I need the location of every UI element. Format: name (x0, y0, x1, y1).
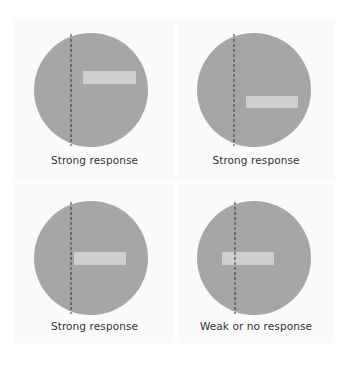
bar-stimulus (222, 252, 274, 265)
panel-top-right: Strong response (177, 19, 335, 181)
response-label: Weak or no response (177, 320, 335, 332)
panel-bottom-left: Strong response (14, 184, 175, 343)
panel-bottom-right: Weak or no response (177, 184, 335, 343)
response-label: Strong response (14, 154, 175, 166)
response-label: Strong response (14, 320, 175, 332)
panel-top-left: Strong response (14, 19, 175, 181)
bar-stimulus (83, 71, 136, 84)
receptive-field-circle (197, 33, 311, 147)
response-label: Strong response (177, 154, 335, 166)
bar-stimulus (74, 252, 126, 265)
bar-stimulus (246, 96, 298, 108)
receptive-field-diagram: Strong response Strong response Strong r… (14, 19, 335, 343)
receptive-field-circle (34, 33, 148, 147)
